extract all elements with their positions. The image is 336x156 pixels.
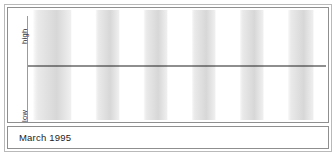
shaded-band xyxy=(95,10,119,120)
axis-label-low: low xyxy=(20,110,29,122)
biorhythm-plot xyxy=(8,8,328,122)
shaded-band xyxy=(33,10,71,120)
shaded-band xyxy=(191,10,215,120)
shaded-band xyxy=(288,10,314,120)
shaded-band xyxy=(239,10,263,120)
footer-strip: March 1995 xyxy=(7,126,329,149)
biorhythm-chart-widget: high low March 1995 xyxy=(0,0,336,156)
axis-label-high: high xyxy=(20,29,29,44)
shaded-band xyxy=(143,10,167,120)
shaded-bands-layer xyxy=(33,10,314,120)
chart-panel: high low xyxy=(7,7,329,123)
period-label: March 1995 xyxy=(19,132,71,143)
